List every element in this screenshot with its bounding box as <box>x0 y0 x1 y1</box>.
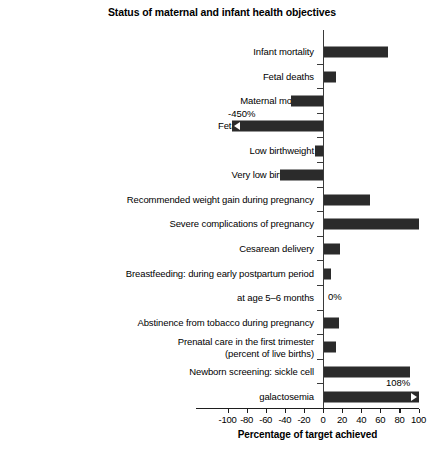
category-label: Infant mortality <box>253 47 314 59</box>
chart-row: at age 5–6 months0% <box>0 286 444 311</box>
category-label: Low birthweight <box>249 145 314 157</box>
bar <box>324 367 410 378</box>
x-axis-tick <box>399 409 400 413</box>
chart-row: Prenatal care in the first trimester(per… <box>0 335 444 360</box>
x-axis-tick <box>304 409 305 413</box>
bar <box>324 194 370 205</box>
x-axis-tick <box>380 409 381 413</box>
category-label: Prenatal care in the first trimester(per… <box>94 336 314 359</box>
x-axis-title: Percentage of target achieved <box>196 429 419 440</box>
bar-value-annotation: 108% <box>386 377 410 388</box>
x-axis-tick <box>342 409 343 413</box>
chart-row: Fetal deaths <box>0 65 444 90</box>
category-label: Recommended weight gain during pregnancy <box>127 194 314 206</box>
bar <box>324 71 336 82</box>
x-axis-tick-label: 100 <box>406 414 432 425</box>
bar <box>324 244 340 255</box>
bar <box>324 317 339 328</box>
chart-row: Infant mortality <box>0 40 444 65</box>
x-axis-tick <box>419 409 420 413</box>
chart-row: galactosemia108% <box>0 384 444 409</box>
bar <box>280 170 323 181</box>
bar-value-annotation: 0% <box>328 291 342 302</box>
x-axis-tick <box>361 409 362 413</box>
bar <box>315 145 323 156</box>
off-scale-arrow-right-icon <box>411 393 417 401</box>
category-label: Fetal deaths <box>263 71 314 83</box>
chart-row: Abstinence from tobacco during pregnancy <box>0 311 444 336</box>
bar <box>324 342 336 353</box>
bar <box>324 47 388 58</box>
off-scale-arrow-left-icon <box>234 122 240 130</box>
category-label: at age 5–6 months <box>237 293 314 305</box>
chart-figure: Status of maternal and infant health obj… <box>0 0 444 459</box>
x-axis-line <box>196 408 419 409</box>
chart-row: Severe complications of pregnancy <box>0 212 444 237</box>
category-label: Breastfeeding: during early postpartum p… <box>126 268 314 280</box>
chart-row: Maternal mortality <box>0 89 444 114</box>
x-axis-tick <box>266 409 267 413</box>
chart-row: Recommended weight gain during pregnancy <box>0 188 444 213</box>
bar <box>291 96 323 107</box>
bar <box>324 219 419 230</box>
plot-area: Infant mortalityFetal deathsMaternal mor… <box>0 30 444 408</box>
bar <box>324 391 419 402</box>
x-axis-tick <box>228 409 229 413</box>
chart-title: Status of maternal and infant health obj… <box>0 6 444 18</box>
chart-row: Breastfeeding: during early postpartum p… <box>0 261 444 286</box>
category-label: Cesarean delivery <box>239 243 314 255</box>
x-axis-tick <box>323 409 324 413</box>
category-label: Newborn screening: sickle cell <box>189 366 314 378</box>
bar-value-annotation: -450% <box>228 108 255 119</box>
category-label: Abstinence from tobacco during pregnancy <box>137 317 314 329</box>
chart-row: Low birthweight <box>0 138 444 163</box>
bar <box>232 121 323 132</box>
bar <box>324 268 331 279</box>
x-axis-tick <box>247 409 248 413</box>
chart-row: Fetal alcohol syndrome-450% <box>0 114 444 139</box>
x-axis-tick <box>285 409 286 413</box>
chart-row: Newborn screening: sickle cell <box>0 360 444 385</box>
category-label: galactosemia <box>259 391 314 403</box>
chart-row: Cesarean delivery <box>0 237 444 262</box>
chart-row: Very low birthweight <box>0 163 444 188</box>
category-label: Severe complications of pregnancy <box>169 219 314 231</box>
